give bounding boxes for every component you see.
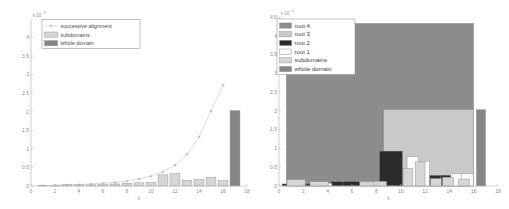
legend-swatch — [45, 41, 58, 46]
y-tick-label: 4.5 — [270, 14, 277, 20]
legend-item: root 3 — [280, 31, 311, 37]
legend-swatch — [280, 23, 292, 28]
x-tick-label: 16 — [220, 188, 226, 194]
bar — [458, 179, 469, 186]
bar — [182, 180, 192, 186]
svg-text:-3: -3 — [43, 11, 46, 15]
legend-swatch — [280, 49, 292, 54]
y-tick-label: 0 — [274, 183, 277, 189]
legend-swatch — [280, 32, 292, 37]
y-tick-label: 2.5 — [270, 89, 277, 95]
plus-marker-icon — [42, 184, 45, 187]
x-tick-label: 0 — [30, 188, 33, 194]
legend-label: root 1 — [295, 49, 311, 55]
legend-item: subdomains — [280, 57, 327, 63]
legend: successive alignmentsubdomainswhole doma… — [42, 20, 140, 49]
x-tick-label: 8 — [126, 188, 129, 194]
y-tick-label: 1.5 — [270, 126, 277, 132]
x-tick-label: 0 — [278, 188, 281, 194]
legend-item: subdomains — [45, 32, 90, 38]
x-tick-label: 14 — [196, 188, 202, 194]
curve-path — [43, 85, 223, 185]
y-axis-exponent: x 10-3 — [33, 11, 46, 17]
y-tick-label: 3.5 — [270, 51, 277, 57]
x-tick-label: 10 — [148, 188, 154, 194]
x-tick-label: 18 — [495, 188, 501, 194]
legend-label: root 3 — [295, 31, 311, 37]
y-tick-label: 3 — [26, 71, 29, 77]
legend-label: root 2 — [295, 40, 311, 46]
y-tick-label: 2.5 — [22, 90, 29, 96]
bar — [287, 180, 305, 186]
x-tick-label: 12 — [172, 188, 178, 194]
legend-label: subdomains — [61, 32, 90, 38]
y-tick-label: 1.5 — [22, 127, 29, 133]
y-tick-label: 1 — [26, 146, 29, 152]
bar — [206, 177, 216, 186]
bar — [158, 175, 168, 186]
legend-item: whole domain — [45, 40, 94, 46]
bar — [310, 182, 328, 186]
svg-text:x 10: x 10 — [281, 11, 290, 16]
legend-label: whole domain — [60, 40, 94, 46]
plus-marker-icon — [150, 175, 153, 178]
x-tick-label: 4 — [326, 188, 329, 194]
x-tick-label: 6 — [102, 188, 105, 194]
bar — [230, 111, 240, 186]
x-tick-label: 6 — [351, 188, 354, 194]
svg-text:-3: -3 — [291, 9, 294, 13]
plus-marker-icon — [222, 84, 225, 87]
bar — [134, 183, 144, 186]
y-tick-label: 3.5 — [22, 53, 29, 59]
y-tick-label: 0 — [26, 183, 29, 189]
x-tick-label: 18 — [244, 188, 250, 194]
left-chart-svg: x 10-302468101214161800.511.522.533.54ks… — [0, 0, 255, 209]
figure-page: x 10-302468101214161800.511.522.533.54ks… — [0, 0, 509, 209]
bar — [360, 182, 373, 186]
legend-swatch — [45, 32, 58, 37]
legend-item: root 2 — [280, 40, 311, 46]
legend-label: root 4 — [295, 23, 311, 29]
bar — [476, 110, 485, 186]
line-series-successive-alignment — [42, 84, 225, 187]
y-axis-exponent: x 10-3 — [281, 9, 294, 15]
bar — [430, 178, 441, 186]
y-tick-label: 2 — [26, 109, 29, 115]
bar — [443, 177, 454, 186]
plus-marker-icon — [138, 178, 141, 181]
left-chart-panel: x 10-302468101214161800.511.522.533.54ks… — [0, 0, 255, 209]
x-axis-label: k — [387, 195, 390, 201]
y-tick-label: 4 — [26, 34, 29, 40]
right-chart-svg: x 10-302468101214161800.511.522.533.544.… — [255, 0, 509, 209]
x-tick-label: 2 — [54, 188, 57, 194]
bar — [379, 151, 402, 186]
legend-label: successive alignment — [61, 23, 113, 29]
y-tick-label: 0.5 — [270, 164, 277, 170]
legend-label: subdomains — [295, 57, 327, 63]
x-tick-label: 14 — [447, 188, 453, 194]
x-axis-label: k — [138, 195, 141, 201]
y-tick-label: 2 — [274, 108, 277, 114]
right-chart-panel: x 10-302468101214161800.511.522.533.544.… — [255, 0, 509, 209]
legend-item: root 4 — [280, 23, 311, 29]
legend-item: whole domain — [280, 66, 332, 72]
legend-item: root 1 — [280, 49, 311, 55]
x-tick-label: 12 — [422, 188, 428, 194]
bar — [373, 181, 386, 186]
plus-marker-icon — [210, 110, 213, 113]
plus-marker-icon — [114, 181, 117, 184]
x-tick-label: 2 — [302, 188, 305, 194]
bar — [415, 162, 425, 186]
legend-swatch — [280, 58, 292, 63]
x-tick-label: 10 — [398, 188, 404, 194]
plus-marker-icon — [162, 171, 165, 174]
bar-series-whole-domain — [230, 111, 240, 186]
svg-text:x 10: x 10 — [33, 13, 42, 18]
y-tick-label: 1 — [274, 145, 277, 151]
x-tick-label: 4 — [78, 188, 81, 194]
legend-swatch — [280, 40, 292, 45]
x-tick-label: 8 — [375, 188, 378, 194]
bar-series-whole-domain — [476, 110, 485, 186]
legend-label: whole domain — [294, 66, 332, 72]
legend: root 4root 3root 2root 1subdomainswhole … — [277, 19, 355, 75]
